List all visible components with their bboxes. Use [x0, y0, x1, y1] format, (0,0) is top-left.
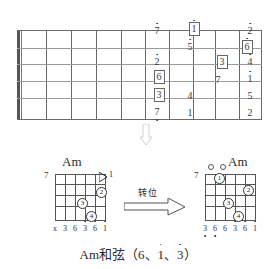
note-glyph: 4 [188, 91, 193, 101]
inversion-arrow [124, 198, 186, 216]
fretboard-note: 1 [243, 74, 257, 84]
string-note-glyph: 3 [63, 224, 67, 233]
fretboard-note: 6 [152, 70, 166, 84]
chord-left-string-3 [75, 174, 76, 221]
fretboard-note: 7 [211, 75, 225, 85]
chord-left-fret-0 [55, 174, 105, 175]
note-glyph: 2 [155, 57, 160, 67]
caption-note-1: 1 [158, 247, 165, 263]
fretboard-note: 7 [150, 107, 164, 117]
fretboard-note: 2 [243, 108, 257, 118]
chord-right-title: Am [228, 154, 248, 170]
chord-right-fret-0 [205, 174, 255, 175]
note-glyph: 1 [188, 108, 193, 118]
caption-note-2: 3 [177, 247, 184, 263]
fretboard-note: 1 [187, 22, 201, 36]
string-line-5 [17, 98, 262, 99]
open-string-marker-1 [208, 164, 214, 170]
open-string-marker-2 [220, 164, 226, 170]
fret-line-1 [46, 30, 47, 120]
note-glyph: 3 [154, 88, 165, 102]
caption: Am和弦（6、1、3） [0, 244, 276, 263]
diagram-root: 71256234671345712 Am 7 1 [0, 0, 276, 269]
note-glyph: 7 [216, 75, 221, 85]
fret-line-5 [145, 30, 146, 120]
string-note-label: 6 [210, 224, 220, 233]
caption-prefix: Am和弦（6、 [80, 247, 158, 262]
note-glyph: 1 [189, 22, 200, 36]
chord-right-string-5 [245, 174, 246, 221]
guitar-fretboard [17, 30, 262, 120]
note-glyph: 7 [155, 26, 160, 36]
string-note-glyph: 6 [223, 224, 227, 233]
fretboard-nut [17, 30, 20, 120]
fretboard-note: 6 [240, 40, 254, 54]
chord-left-string-1 [55, 174, 56, 221]
chord-left-fret-1 [55, 184, 105, 185]
note-glyph: 1 [248, 74, 253, 84]
string-note-label: 1 [250, 224, 260, 233]
fretboard-note: 4 [243, 57, 257, 67]
chord-left-fret-4 [55, 220, 105, 221]
string-note-glyph: 3 [203, 224, 207, 233]
fretboard-note: 5 [183, 42, 197, 52]
string-note-glyph: 6 [213, 224, 217, 233]
string-note-label: 6 [70, 224, 80, 233]
finger-position-dot: 1 [214, 173, 225, 184]
fret-line-4 [121, 30, 122, 120]
note-glyph: 2 [248, 108, 253, 118]
string-note-label: 6 [240, 224, 250, 233]
fretboard-nut-line [21, 30, 22, 120]
string-note-label: x [50, 224, 60, 233]
chord-left-string-2 [65, 174, 66, 221]
fretboard-note: 2 [150, 57, 164, 67]
caption-suffix: ） [184, 247, 197, 262]
chord-left-fret-number: 7 [44, 170, 49, 180]
string-note-glyph: x [53, 224, 57, 233]
fretboard-note: 5 [243, 91, 257, 101]
string-line-2 [17, 48, 262, 49]
chord-left-barre-label: 1 [109, 170, 113, 179]
fret-line-2 [71, 30, 72, 120]
fret-line-10 [261, 30, 262, 120]
note-glyph: 4 [248, 57, 253, 67]
chord-right-string-6 [255, 174, 256, 221]
string-note-glyph: 1 [103, 224, 107, 233]
note-glyph: 6 [154, 70, 165, 84]
finger-position-dot: 2 [243, 185, 254, 196]
chord-right-fret-4 [205, 220, 255, 221]
chord-left-title: Am [62, 154, 82, 170]
note-glyph: 2 [248, 26, 253, 36]
fretboard-note: 1 [183, 108, 197, 118]
string-note-glyph: 6 [73, 224, 77, 233]
string-note-label: 3 [60, 224, 70, 233]
string-note-label: 6 [220, 224, 230, 233]
string-note-glyph: 6 [243, 224, 247, 233]
fretboard-note: 4 [183, 91, 197, 101]
fretboard-note: 2 [243, 26, 257, 36]
string-note-glyph: 6 [93, 224, 97, 233]
fretboard-note: 7 [150, 26, 164, 36]
note-glyph: 5 [188, 42, 193, 52]
caption-separator: 、 [164, 247, 177, 262]
chord-right-fret-number: 7 [194, 170, 199, 180]
fret-line-6 [169, 30, 170, 120]
note-glyph: 6 [242, 40, 253, 54]
note-glyph: 7 [155, 107, 160, 117]
string-note-label: 3 [80, 224, 90, 233]
string-note-glyph: 3 [83, 224, 87, 233]
fret-line-3 [96, 30, 97, 120]
string-line-4 [17, 81, 262, 82]
string-line-1 [17, 30, 262, 31]
string-note-label: 1 [100, 224, 110, 233]
finger-position-dot: 3 [77, 198, 88, 209]
fretboard-note: 3 [152, 88, 166, 102]
string-note-label: 3 [200, 224, 210, 233]
chord-right-string-1 [205, 174, 206, 221]
note-glyph: 3 [217, 55, 228, 69]
down-arrow [139, 124, 153, 146]
finger-position-dot: 2 [96, 187, 107, 198]
finger-position-dot: 3 [223, 198, 234, 209]
note-glyph: 5 [248, 91, 253, 101]
fretboard-note: 3 [215, 55, 229, 69]
